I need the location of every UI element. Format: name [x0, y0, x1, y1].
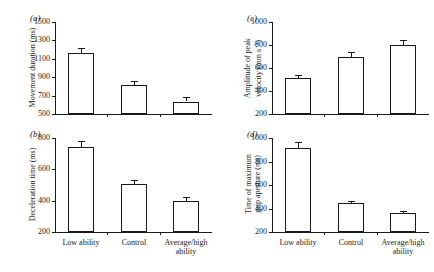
x-tick-d-2 — [377, 232, 378, 235]
x-tick-d-1 — [324, 232, 325, 235]
y-tick-label-d-600: 600 — [236, 181, 267, 189]
x-tick-label-line2-d: ability — [372, 247, 434, 256]
y-tick-d-800 — [269, 162, 272, 163]
error-bar-cap-d-3 — [400, 211, 407, 212]
bar-d-1 — [285, 148, 311, 232]
panel-d: (d)Time of maximumgrip aperture (ms)2004… — [0, 0, 434, 272]
error-bar-cap-d-2 — [348, 201, 355, 202]
x-tick-label-line1-d: Average/high — [372, 238, 434, 247]
y-tick-d-400 — [269, 209, 272, 210]
plot-area-d: 2004006008001000Low abilityControlAverag… — [272, 138, 429, 232]
y-tick-d-200 — [269, 232, 272, 233]
y-tick-d-1000 — [269, 138, 272, 139]
y-tick-label-d-200: 200 — [236, 228, 267, 236]
x-tick-label-d-3: Average/highability — [372, 238, 434, 256]
y-tick-d-600 — [269, 185, 272, 186]
figure-container: (a)Movement duration (ms)500700900110013… — [0, 0, 434, 272]
x-axis-d — [272, 232, 429, 233]
y-axis-d — [272, 138, 273, 232]
error-bar-cap-d-1 — [295, 142, 302, 143]
bar-d-2 — [338, 203, 364, 232]
y-tick-label-d-800: 800 — [236, 158, 267, 166]
bar-d-3 — [390, 213, 416, 232]
y-tick-label-d-400: 400 — [236, 205, 267, 213]
y-tick-label-d-1000: 1000 — [236, 134, 267, 142]
